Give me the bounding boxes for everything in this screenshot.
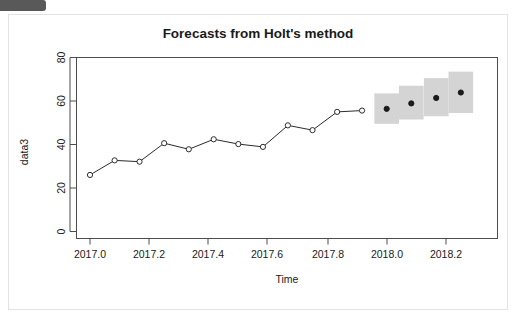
top-left-chip[interactable]	[0, 0, 46, 11]
plot-card	[8, 14, 508, 310]
